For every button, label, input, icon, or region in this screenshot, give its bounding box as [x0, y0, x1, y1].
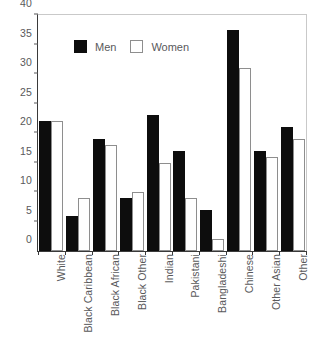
outlined-square-icon — [130, 40, 143, 53]
bar-women — [51, 121, 63, 251]
legend-label-women: Women — [151, 41, 189, 53]
bar-men — [254, 151, 266, 251]
legend-label-men: Men — [95, 41, 116, 53]
bar-men — [120, 198, 132, 251]
y-tick-label: 40 — [20, 0, 38, 9]
x-axis-label: White — [55, 254, 67, 281]
legend-entry-men: Men — [74, 40, 116, 53]
bar-women — [105, 145, 117, 251]
bar-women — [132, 192, 144, 251]
x-axis-labels: WhiteBlack CaribbeanBlack AfricanBlack O… — [37, 254, 309, 338]
y-tick-label: 30 — [20, 56, 38, 68]
y-tick-mark — [34, 14, 38, 15]
y-tick-label: 15 — [20, 145, 38, 157]
y-tick-label: 25 — [20, 86, 38, 98]
bar-group — [38, 15, 65, 251]
bar-men — [281, 127, 293, 251]
bar-group — [226, 15, 253, 251]
bar-men — [227, 30, 239, 251]
bar-women — [239, 68, 251, 251]
x-axis-label: Chinese — [243, 254, 255, 293]
bar-women — [159, 163, 171, 252]
bar-women — [293, 139, 305, 251]
x-axis-label: Other — [297, 254, 309, 281]
bar-women — [266, 157, 278, 251]
bar-men — [93, 139, 105, 251]
bar-women — [185, 198, 197, 251]
x-axis-label: Pakistani — [189, 254, 201, 298]
x-axis-label: Black Other — [136, 254, 148, 310]
y-tick-mark — [34, 102, 38, 103]
legend-entry-women: Women — [130, 40, 189, 53]
bar-men — [200, 210, 212, 251]
bar-chart-figure: 0510152025303540 WhiteBlack CaribbeanBla… — [0, 0, 317, 338]
x-axis-label: Indian — [163, 254, 175, 283]
y-tick-label: 10 — [20, 174, 38, 186]
y-tick-label: 20 — [20, 115, 38, 127]
bar-group — [199, 15, 226, 251]
y-tick-mark — [34, 73, 38, 74]
bar-men — [66, 216, 78, 251]
y-tick-mark — [34, 132, 38, 133]
y-tick-mark — [34, 161, 38, 162]
y-tick-mark — [34, 191, 38, 192]
x-axis-label: Black Caribbean — [82, 254, 94, 333]
y-tick-label: 5 — [26, 204, 38, 216]
bar-women — [212, 239, 224, 251]
filled-square-icon — [74, 40, 87, 53]
y-tick-mark — [34, 220, 38, 221]
y-tick-mark — [34, 43, 38, 44]
bar-group — [252, 15, 279, 251]
y-tick-label: 35 — [20, 27, 38, 39]
bar-men — [173, 151, 185, 251]
bar-group — [279, 15, 306, 251]
bar-men — [147, 115, 159, 251]
bar-men — [39, 121, 51, 251]
chart-legend: Men Women — [74, 40, 189, 53]
bar-women — [78, 198, 90, 251]
x-axis-label: Black African — [109, 254, 121, 316]
x-axis-label: Bangladeshi — [216, 254, 228, 313]
y-tick-label: 0 — [26, 233, 38, 245]
x-axis-label: Other Asian — [270, 254, 282, 310]
